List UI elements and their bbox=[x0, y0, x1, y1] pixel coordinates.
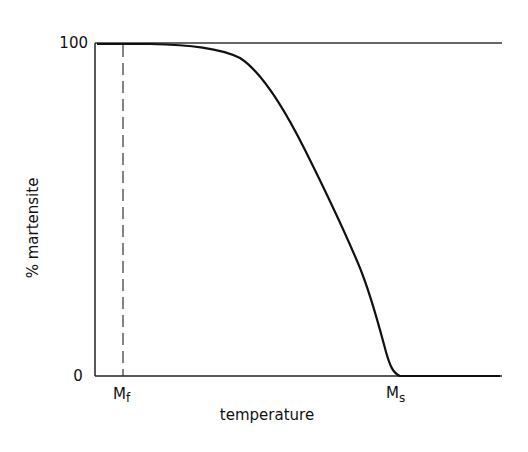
martensite-chart: 100 0 Mf Ms temperature % martensite bbox=[0, 0, 528, 452]
x-axis-label: temperature bbox=[220, 406, 314, 424]
y-tick-0: 0 bbox=[73, 367, 83, 385]
martensite-curve bbox=[97, 44, 500, 376]
y-tick-100: 100 bbox=[59, 34, 88, 52]
x-tick-mf: Mf bbox=[113, 385, 131, 405]
x-tick-ms: Ms bbox=[386, 384, 405, 405]
y-axis-label: % martensite bbox=[24, 178, 42, 279]
